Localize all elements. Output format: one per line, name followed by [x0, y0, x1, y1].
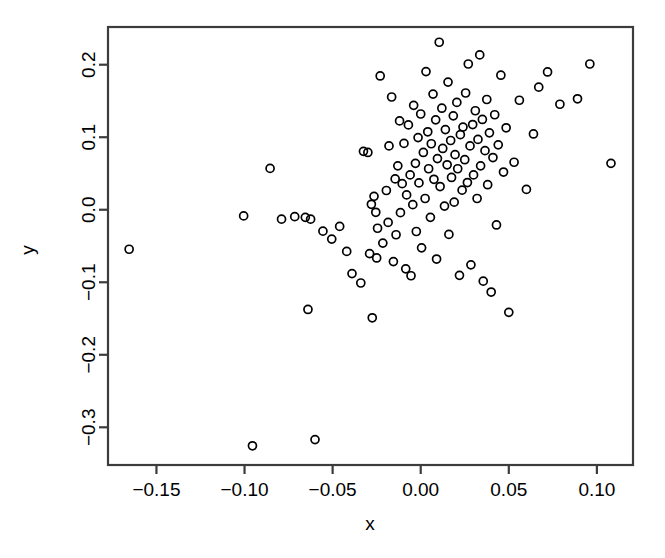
y-tick-label: −0.2	[78, 336, 99, 374]
y-tick-label: 0.2	[78, 51, 99, 77]
x-tick-label: 0.00	[402, 479, 439, 500]
y-tick-label: 0.1	[78, 124, 99, 150]
y-tick-label: 0.0	[78, 197, 99, 223]
x-tick-label: 0.10	[578, 479, 615, 500]
x-tick-label: −0.10	[220, 479, 268, 500]
x-axis-title: x	[365, 513, 375, 534]
x-tick-label: −0.05	[309, 479, 357, 500]
x-tick-label: 0.05	[490, 479, 527, 500]
figure-background	[0, 0, 665, 558]
x-tick-label: −0.15	[132, 479, 180, 500]
y-tick-label: −0.3	[78, 409, 99, 447]
chart-canvas: −0.15−0.10−0.050.000.050.10 0.20.10.0−0.…	[0, 0, 665, 558]
scatter-plot-figure: −0.15−0.10−0.050.000.050.10 0.20.10.0−0.…	[0, 0, 665, 558]
y-tick-label: −0.1	[78, 264, 99, 302]
y-axis-title: y	[17, 245, 38, 255]
